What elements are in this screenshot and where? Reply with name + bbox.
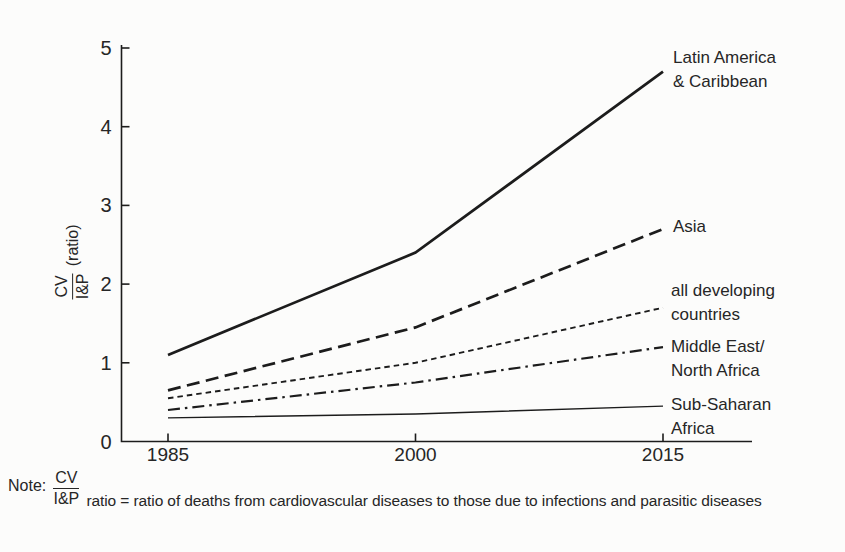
series-label-line: North Africa (671, 359, 765, 383)
y-tick-label: 4 (82, 117, 112, 137)
y-tick-label: 3 (82, 195, 112, 215)
x-tick-label: 2000 (381, 445, 451, 465)
series-line-all-developing-countries (168, 308, 663, 399)
y-tick-label: 1 (82, 353, 112, 373)
footnote-text: ratio = ratio of deaths from cardiovascu… (86, 466, 761, 510)
y-tick-label: 5 (82, 38, 112, 58)
series-label-line: Africa (671, 417, 771, 441)
series-label-line: countries (671, 303, 775, 327)
y-tick-label: 0 (82, 432, 112, 452)
series-label-line: Latin America (673, 46, 776, 70)
series-label-line: & Caribbean (673, 70, 776, 94)
y-axis-fraction-numerator: CV (53, 273, 73, 299)
series-label-line: Middle East/ (671, 335, 765, 359)
series-label-sub-saharan-africa: Sub-Saharan Africa (671, 393, 771, 441)
x-tick-label: 1985 (133, 445, 203, 465)
y-tick-label: 2 (82, 274, 112, 294)
footnote-fraction-denominator: I&P (53, 489, 79, 508)
series-line-sub-saharan-africa (168, 406, 663, 418)
series-line-middle-east-north-africa (168, 347, 663, 410)
y-axis-label-suffix: (ratio) (64, 224, 82, 266)
series-label-all-developing-countries: all developing countries (671, 279, 775, 327)
series-label-line: Sub-Saharan (671, 393, 771, 417)
series-label-latin-america-caribbean: Latin America & Caribbean (673, 46, 776, 94)
x-tick-label: 2015 (628, 445, 698, 465)
series-label-line: all developing (671, 279, 775, 303)
footnote-fraction-numerator: CV (53, 469, 79, 489)
footnote: Note: CV I&P ratio = ratio of deaths fro… (8, 466, 762, 510)
footnote-fraction: CV I&P (53, 469, 79, 509)
axis-lines (122, 45, 753, 442)
scanned-line-chart-page: CV I&P (ratio) Latin America & Caribbean… (0, 0, 845, 552)
series-label-line: Asia (673, 215, 706, 239)
series-label-middle-east-north-africa: Middle East/ North Africa (671, 335, 765, 383)
footnote-label: Note: (8, 466, 46, 495)
series-label-asia: Asia (673, 215, 706, 239)
series-line-latin-america-caribbean (168, 72, 663, 355)
